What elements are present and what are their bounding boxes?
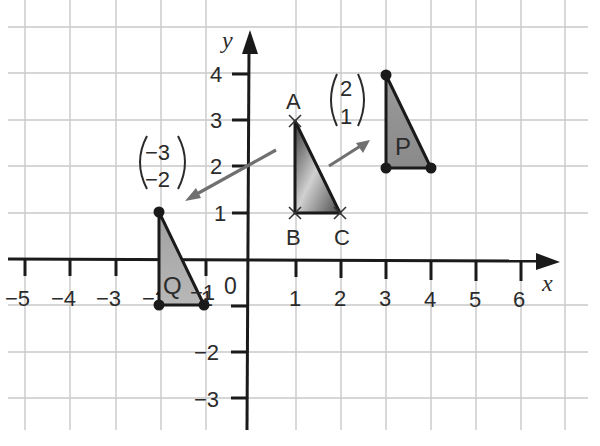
y-axis-label: y [220, 27, 233, 53]
vector-to-p-bottom: 1 [340, 104, 352, 129]
x-axis [8, 253, 560, 281]
x-tick-label: −5 [5, 286, 30, 311]
vector-to-p-top: 2 [340, 76, 352, 101]
vertex-label-b: B [286, 225, 301, 250]
x-axis-arrow-icon [536, 253, 560, 270]
vertex-label-c: C [334, 225, 350, 250]
y-tick-label: 2 [210, 154, 222, 179]
x-tick-label: 6 [513, 287, 525, 312]
triangle-q-label: Q [163, 272, 182, 299]
y-tick-labels: 4 3 2 1 −2 −3 [194, 62, 226, 412]
x-tick-label: −3 [96, 286, 121, 311]
vertex-label-a: A [286, 89, 301, 114]
y-tick-label: 4 [210, 62, 222, 87]
arrow-to-q-icon [185, 150, 276, 201]
x-tick-labels: −5 −4 −3 −2 −1 1 2 3 4 5 6 [5, 286, 525, 312]
triangle-p: P [381, 70, 437, 174]
triangle-p-label: P [395, 133, 411, 160]
vertex-dot [426, 163, 437, 174]
x-tick-label: 5 [469, 287, 481, 312]
vertex-dot [381, 163, 392, 174]
arrow-to-p-icon [329, 140, 370, 166]
x-tick-label: 3 [379, 286, 391, 311]
vector-to-p: 2 1 [331, 74, 364, 129]
y-tick-label: 1 [214, 201, 226, 226]
coordinate-diagram: y x 0 −5 −4 −3 −2 −1 1 2 3 4 5 6 4 3 2 1… [0, 0, 600, 446]
vertex-dot [199, 300, 210, 311]
vertex-dot [154, 207, 165, 218]
x-tick-label: 4 [424, 287, 436, 312]
x-tick-label: 1 [289, 286, 301, 311]
y-tick-label: −2 [194, 340, 219, 365]
y-tick-label: 3 [210, 108, 222, 133]
vertex-dot [381, 70, 392, 81]
vector-to-q: −3 −2 [140, 136, 185, 192]
y-tick-label: −3 [194, 387, 219, 412]
y-axis-arrow-icon [242, 30, 258, 54]
x-tick-label: 2 [334, 286, 346, 311]
x-axis-label: x [541, 270, 553, 296]
vector-to-q-bottom: −2 [145, 167, 170, 192]
vector-to-q-top: −3 [145, 140, 170, 165]
vertex-dot [154, 300, 165, 311]
y-axis [231, 30, 258, 430]
origin-label: 0 [224, 273, 237, 299]
x-tick-label: −4 [51, 286, 76, 311]
